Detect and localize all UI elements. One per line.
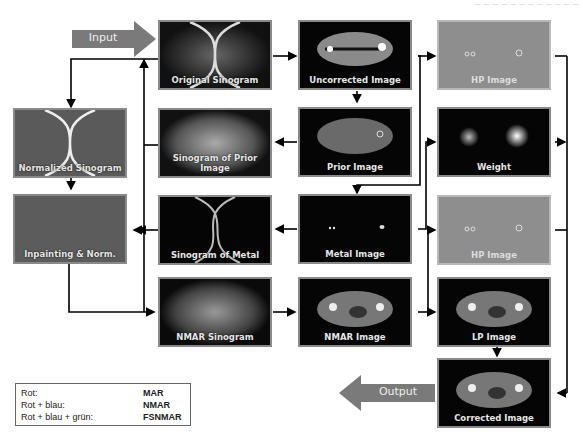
lp-image-label: LP Image (439, 332, 549, 342)
hp-image-1-label: HP Image (439, 75, 549, 85)
sinogram-metal-box: Sinogram of Metal (158, 195, 272, 265)
metal-image-box: Metal Image (298, 194, 412, 264)
sinogram-prior-label: Sinogram of Prior Image (160, 153, 270, 173)
legend-row: Rot: MAR (21, 387, 185, 399)
input-arrow-label-wrap: Input (72, 21, 134, 57)
weight-label: Weight (439, 162, 549, 172)
legend-key: Rot + blau + grün: (21, 411, 143, 423)
sinogram-prior-box: Sinogram of Prior Image (158, 108, 272, 178)
input-arrow-label: Input (72, 31, 134, 44)
legend-row: Rot + blau: NMAR (21, 399, 185, 411)
normalized-sinogram-box: Normalized Sinogram (13, 108, 127, 178)
corrected-image-box: Corrected Image (437, 358, 551, 428)
inpainting-norm-box: Inpainting & Norm. (13, 194, 127, 264)
inpainting-norm-label: Inpainting & Norm. (15, 249, 125, 259)
hp-image-2-box: HP Image (437, 195, 551, 265)
hp-image-2-label: HP Image (439, 250, 549, 260)
nmar-image-box: NMAR Image (298, 277, 412, 347)
output-arrow-label: Output (361, 385, 435, 398)
legend-box: Rot: MAR Rot + blau: NMAR Rot + blau + g… (15, 383, 191, 426)
hp-image-1-box: HP Image (437, 20, 551, 90)
prior-image-box: Prior Image (298, 107, 412, 177)
output-arrow-label-wrap: Output (361, 375, 435, 411)
normalized-sinogram-label: Normalized Sinogram (15, 163, 125, 173)
nmar-sinogram-label: NMAR Sinogram (160, 332, 270, 342)
original-sinogram-label: Original Sinogram (160, 75, 270, 85)
legend-key: Rot + blau: (21, 399, 143, 411)
legend-value: MAR (143, 387, 164, 399)
nmar-image-label: NMAR Image (300, 332, 410, 342)
uncorrected-image-label: Uncorrected Image (300, 75, 410, 85)
corrected-image-label: Corrected Image (439, 413, 549, 423)
prior-image-label: Prior Image (300, 162, 410, 172)
legend-value: NMAR (143, 399, 170, 411)
legend-row: Rot + blau + grün: FSNMAR (21, 411, 185, 423)
lp-image-box: LP Image (437, 277, 551, 347)
sinogram-metal-label: Sinogram of Metal (160, 250, 270, 260)
weight-box: Weight (437, 107, 551, 177)
legend-value: FSNMAR (143, 411, 182, 423)
legend-key: Rot: (21, 387, 143, 399)
metal-image-label: Metal Image (300, 249, 410, 259)
uncorrected-image-box: Uncorrected Image (298, 20, 412, 90)
original-sinogram-box: Original Sinogram (158, 20, 272, 90)
nmar-sinogram-box: NMAR Sinogram (158, 277, 272, 347)
